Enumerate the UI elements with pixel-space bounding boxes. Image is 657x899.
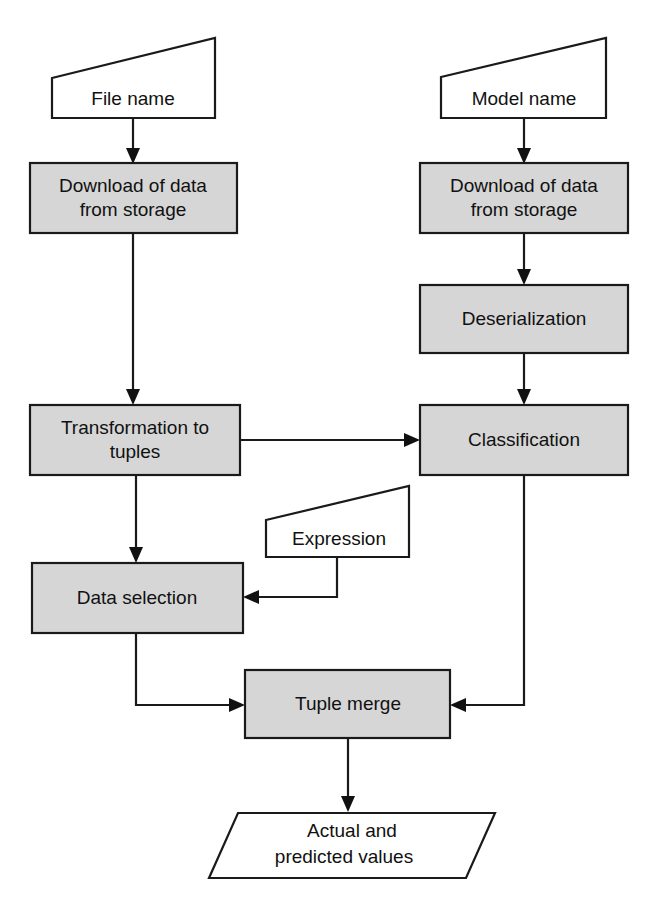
transformation-to-tuples-label-line1: Transformation to <box>61 417 209 438</box>
actual-and-predicted-values-label-line1: Actual and <box>307 820 397 841</box>
node-file-name[interactable]: File name <box>52 38 215 118</box>
classification-label: Classification <box>468 429 580 450</box>
flowchart-diagram: File name Download of data from storage … <box>0 0 657 899</box>
data-selection-label: Data selection <box>77 587 197 608</box>
edge-classification-to-tuple-merge <box>450 475 524 712</box>
edge-expression-to-data-selection <box>243 557 337 604</box>
download-left-shape[interactable] <box>30 163 237 233</box>
download-right-label-line2: from storage <box>471 199 578 220</box>
file-name-label: File name <box>91 88 174 109</box>
download-right-shape[interactable] <box>420 163 628 233</box>
download-left-label-line2: from storage <box>80 199 187 220</box>
edge-deserialization-to-classification <box>517 353 531 405</box>
edge-transformation-to-data-selection <box>129 475 143 563</box>
tuple-merge-label: Tuple merge <box>295 693 401 714</box>
expression-label: Expression <box>292 528 386 549</box>
node-tuple-merge[interactable]: Tuple merge <box>245 670 450 738</box>
edge-download-right-to-deserialization <box>517 233 531 285</box>
node-transformation-to-tuples[interactable]: Transformation to tuples <box>30 405 240 475</box>
transformation-to-tuples-shape[interactable] <box>30 405 240 475</box>
node-expression[interactable]: Expression <box>266 486 409 557</box>
edge-transformation-to-classification <box>240 433 420 447</box>
node-deserialization[interactable]: Deserialization <box>420 285 628 353</box>
edge-model-name-to-download-right <box>517 118 531 164</box>
node-download-of-data-from-storage-right[interactable]: Download of data from storage <box>420 163 628 233</box>
edge-tuple-merge-to-output <box>341 738 355 812</box>
node-download-of-data-from-storage-left[interactable]: Download of data from storage <box>30 163 237 233</box>
node-classification[interactable]: Classification <box>420 405 628 475</box>
node-model-name[interactable]: Model name <box>441 38 606 118</box>
download-left-label-line1: Download of data <box>59 175 207 196</box>
transformation-to-tuples-label-line2: tuples <box>110 441 161 462</box>
actual-and-predicted-values-label-line2: predicted values <box>275 846 413 867</box>
edge-file-name-to-download-left <box>126 118 140 164</box>
node-actual-and-predicted-values[interactable]: Actual and predicted values <box>209 813 495 878</box>
node-data-selection[interactable]: Data selection <box>32 563 243 633</box>
download-right-label-line1: Download of data <box>450 175 598 196</box>
model-name-label: Model name <box>472 88 577 109</box>
deserialization-label: Deserialization <box>462 308 587 329</box>
flowchart-canvas: File name Download of data from storage … <box>0 0 657 899</box>
edge-data-selection-to-tuple-merge <box>136 633 245 712</box>
edge-download-left-to-transformation <box>126 233 140 405</box>
